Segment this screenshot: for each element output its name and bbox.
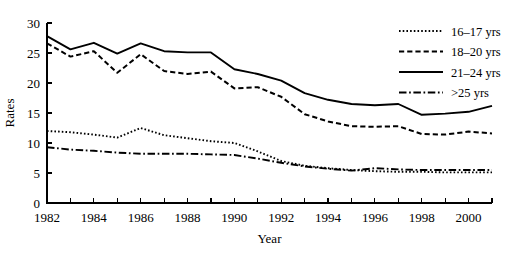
- y-tick-label: 20: [27, 76, 40, 91]
- x-tick-label: 1998: [409, 210, 435, 225]
- data-series-group: [47, 36, 492, 172]
- y-tick-label: 5: [34, 166, 41, 181]
- legend-label-2: 21–24 yrs: [451, 66, 501, 80]
- legend-label-3: >25 yrs: [451, 86, 489, 100]
- line-chart: 1982198419861988199019921994199619982000…: [0, 0, 531, 265]
- y-tick-label: 10: [27, 136, 40, 151]
- x-tick-label: 1988: [175, 210, 201, 225]
- tick-marks: [47, 23, 492, 203]
- x-tick-label: 1982: [34, 210, 60, 225]
- x-axis-tick-labels: 1982198419861988199019921994199619982000: [34, 210, 482, 225]
- x-tick-label: 1996: [362, 210, 389, 225]
- y-tick-label: 0: [34, 196, 41, 211]
- chart-figure: 1982198419861988199019921994199619982000…: [0, 0, 531, 265]
- y-tick-label: 15: [27, 106, 40, 121]
- y-axis-tick-labels: 051015202530: [27, 16, 40, 211]
- legend-label-0: 16–17 yrs: [451, 25, 501, 39]
- x-tick-label: 1992: [268, 210, 294, 225]
- series-line-3: [47, 147, 492, 170]
- x-tick-label: 1994: [315, 210, 342, 225]
- axis-spines: [47, 23, 492, 203]
- x-tick-label: 1990: [221, 210, 247, 225]
- y-axis-title: Rates: [2, 99, 17, 128]
- series-line-1: [47, 43, 492, 134]
- chart-legend: 16–17 yrs18–20 yrs21–24 yrs>25 yrs: [399, 25, 501, 101]
- x-tick-label: 1986: [128, 210, 155, 225]
- x-tick-label: 1984: [81, 210, 108, 225]
- y-tick-label: 30: [27, 16, 40, 31]
- x-axis-title: Year: [258, 231, 283, 246]
- x-tick-label: 2000: [456, 210, 482, 225]
- series-line-2: [47, 36, 492, 115]
- y-tick-label: 25: [27, 46, 40, 61]
- legend-label-1: 18–20 yrs: [451, 45, 501, 59]
- axes: [47, 23, 492, 203]
